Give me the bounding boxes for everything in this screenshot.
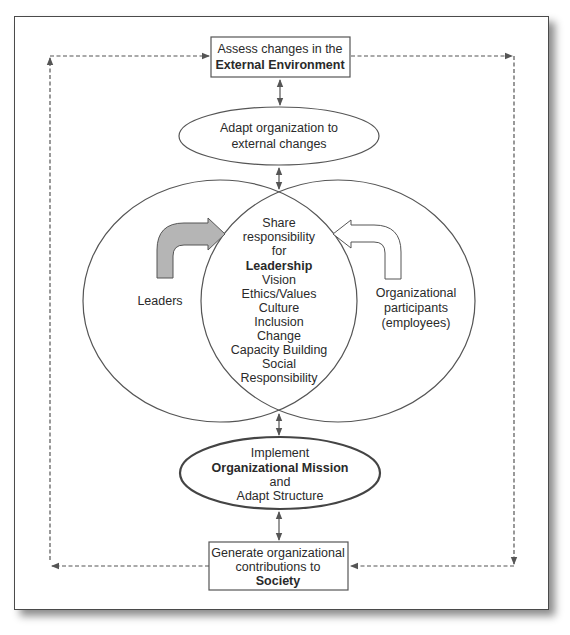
- center-item: Ethics/Values: [242, 287, 317, 301]
- mission-line3: and: [270, 475, 291, 489]
- leaders-label: Leaders: [137, 294, 182, 308]
- center-line: Share: [262, 216, 295, 230]
- mission-line4: Adapt Structure: [237, 489, 324, 503]
- leaders-circle: [83, 180, 357, 422]
- leadership-diagram: Assess changes in the External Environme…: [0, 0, 570, 635]
- mission-line2: Organizational Mission: [212, 461, 349, 475]
- center-line: for: [272, 244, 287, 258]
- center-item: Change: [257, 329, 301, 343]
- adapt-line1: Adapt organization to: [220, 121, 338, 135]
- participants-curved-arrow-icon: [333, 220, 401, 279]
- society-box: Generate organizational contributions to…: [209, 542, 348, 590]
- external-environment-line1: Assess changes in the: [217, 42, 342, 56]
- external-environment-box: Assess changes in the External Environme…: [211, 37, 350, 77]
- participants-line3: (employees): [382, 316, 451, 330]
- shared-leadership-text: Share responsibility for Leadership Visi…: [231, 216, 328, 385]
- external-environment-line2: External Environment: [215, 58, 345, 72]
- adapt-organization-ellipse: Adapt organization to external changes: [179, 107, 379, 165]
- center-item: Capacity Building: [231, 343, 328, 357]
- leadership-heading: Leadership: [246, 259, 313, 273]
- society-line2: contributions to: [236, 560, 321, 574]
- participants-line2: participants: [384, 301, 448, 315]
- center-line: responsibility: [243, 230, 316, 244]
- mission-line1: Implement: [251, 446, 310, 460]
- center-item: Responsibility: [240, 371, 318, 385]
- center-item: Vision: [262, 273, 296, 287]
- organizational-mission-ellipse: Implement Organizational Mission and Ada…: [180, 437, 380, 509]
- adapt-line2: external changes: [231, 137, 326, 151]
- society-line3: Society: [256, 574, 301, 588]
- center-item: Culture: [259, 301, 299, 315]
- society-line1: Generate organizational: [211, 546, 344, 560]
- participants-line1: Organizational: [376, 286, 457, 300]
- center-item: Social: [262, 357, 296, 371]
- center-item: Inclusion: [254, 315, 303, 329]
